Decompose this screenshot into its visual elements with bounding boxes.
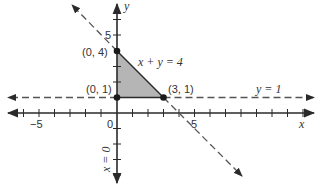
- tick-label-x-5: 5: [191, 118, 197, 130]
- equation-label-y-1: y = 1: [255, 82, 281, 96]
- tick-label-origin: 0: [107, 118, 113, 130]
- equation-label-x-0: x = 0: [99, 147, 113, 173]
- x-axis-label: x: [298, 117, 305, 131]
- line-x-plus-y-equals-4-upper: [72, 5, 117, 51]
- point-0-4: [114, 48, 121, 55]
- tick-label-y-5: 5: [105, 29, 111, 41]
- coordinate-graph: y x 5 −5 0 5 (0, 4) (0, 1) (3, 1) x + y …: [0, 0, 324, 186]
- tick-label-x-neg5: −5: [30, 118, 43, 130]
- y-axis-label: y: [123, 0, 130, 13]
- line-x-plus-y-equals-4-lower: [164, 98, 243, 177]
- point-0-1: [114, 94, 121, 101]
- point-3-1: [160, 94, 167, 101]
- point-label-3-1: (3, 1): [168, 83, 194, 95]
- equation-label-x-plus-y-4: x + y = 4: [137, 55, 183, 69]
- point-label-0-4: (0, 4): [82, 46, 108, 58]
- point-label-0-1: (0, 1): [86, 83, 112, 95]
